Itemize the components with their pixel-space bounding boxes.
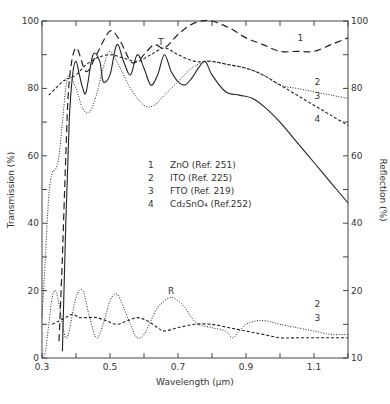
legend-number: 1	[148, 160, 154, 170]
curve-annotation: R	[168, 286, 174, 296]
legend-label: ZnO (Ref. 251)	[170, 160, 236, 170]
series-line-1	[42, 51, 348, 317]
x-tick-label: 0.9	[239, 362, 254, 372]
curve-annotation: 2	[315, 77, 321, 87]
x-tick-label: 0.5	[103, 362, 117, 372]
series-line-5	[52, 314, 348, 338]
x-axis-label: Wavelength (μm)	[156, 377, 234, 387]
legend-number: 4	[148, 199, 154, 209]
y-axis-left-label: Transmission (%)	[6, 152, 16, 230]
y-tick-label-right: 40	[351, 218, 363, 228]
series-line-2	[49, 48, 348, 126]
x-tick-label: 0.7	[171, 362, 185, 372]
legend-label: ITO (Ref. 225)	[170, 173, 232, 183]
y-tick-label-right: 80	[351, 83, 363, 93]
curve-annotation: T	[157, 37, 164, 47]
x-tick-label: 1.1	[307, 362, 321, 372]
y-axis-right-label: Reflection (%)	[378, 158, 388, 221]
curve-annotation: 2	[315, 299, 321, 309]
y-tick-label-left: 20	[28, 286, 40, 296]
curve-annotation: 4	[315, 114, 321, 124]
x-tick-label: 0.3	[35, 362, 49, 372]
y-tick-label-left: 80	[28, 83, 40, 93]
y-tick-label-left: 60	[28, 151, 40, 161]
y-tick-label-left: 40	[28, 218, 40, 228]
legend-label: Cd₂SnO₄ (Ref.252)	[170, 199, 252, 209]
series-line-4	[42, 289, 348, 358]
y-tick-label-right: 10	[351, 353, 363, 363]
y-tick-label-right: 100	[351, 16, 368, 26]
legend-label: FTO (Ref. 219)	[170, 186, 234, 196]
y-tick-label-right: 60	[351, 151, 363, 161]
chart-svg: 0.30.50.70.91.10204060801001020406080100…	[0, 0, 390, 404]
curve-annotation: 3	[315, 313, 321, 323]
y-tick-label-left: 100	[22, 16, 39, 26]
curve-annotation: 1	[298, 33, 304, 43]
series-line-3	[62, 44, 348, 351]
transmission-reflection-chart: 0.30.50.70.91.10204060801001020406080100…	[0, 0, 390, 404]
legend: 1ZnO (Ref. 251)2ITO (Ref. 225)3FTO (Ref.…	[148, 160, 252, 209]
curve-annotation: 3	[315, 91, 321, 101]
y-tick-label-right: 20	[351, 286, 363, 296]
legend-number: 2	[148, 173, 154, 183]
legend-number: 3	[148, 186, 154, 196]
y-tick-label-left: 0	[33, 353, 39, 363]
